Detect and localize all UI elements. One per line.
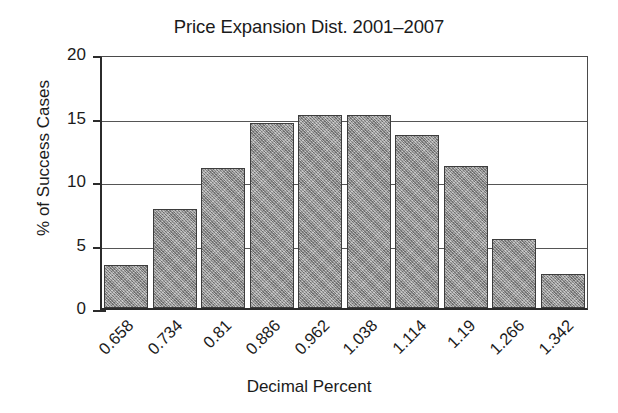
bar-slot [345, 57, 394, 308]
bar [347, 115, 391, 308]
y-tick-mark-0 [93, 310, 106, 312]
bar-slot [539, 57, 588, 308]
y-tick-label: 0 [26, 299, 86, 319]
x-tick-label: 1.266 [430, 316, 528, 413]
x-tick-label: 0.886 [186, 316, 284, 413]
bar-slot [102, 57, 151, 308]
bar-series [102, 57, 587, 308]
plot-area [100, 56, 588, 310]
bar [201, 168, 245, 308]
bar-slot [393, 57, 442, 308]
bar-slot [151, 57, 200, 308]
chart-title: Price Expansion Dist. 2001–2007 [0, 16, 618, 38]
x-tick-label: 1.342 [479, 316, 577, 413]
bar-slot [248, 57, 297, 308]
bar [104, 265, 148, 308]
chart-figure: Price Expansion Dist. 2001–2007 % of Suc… [0, 0, 618, 413]
y-tick-label: 20 [26, 45, 86, 65]
bar [444, 166, 488, 308]
bar [250, 123, 294, 308]
bar [541, 274, 585, 308]
y-tick-label: 5 [26, 236, 86, 256]
bar-slot [199, 57, 248, 308]
y-tick-label: 15 [26, 109, 86, 129]
bar [492, 239, 536, 308]
bar-slot [442, 57, 491, 308]
bar-slot [296, 57, 345, 308]
bar-slot [490, 57, 539, 308]
bar [395, 135, 439, 308]
y-tick-label: 10 [26, 172, 86, 192]
bar [298, 115, 342, 308]
bar [153, 209, 197, 308]
